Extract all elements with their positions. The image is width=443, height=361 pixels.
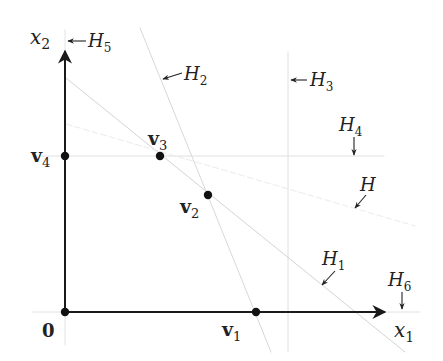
label-pointers — [68, 41, 402, 309]
h1-label: H1 — [321, 248, 345, 273]
v3-label: v3 — [147, 127, 167, 153]
vertex-origin — [61, 308, 69, 316]
origin-label: 0 — [42, 320, 55, 341]
h-label: H — [359, 174, 376, 195]
h1-pointer-arrow-icon — [322, 271, 335, 285]
h-pointer-arrow-icon — [355, 195, 366, 208]
vertex-v3 — [156, 152, 164, 160]
polytope-diagram: x2 x1 0 v1 v2 v3 v4 H5 H2 H3 H4 H H1 H6 — [0, 0, 443, 361]
h6-label: H6 — [387, 269, 411, 294]
h2-label: H2 — [183, 63, 207, 88]
h3-label: H3 — [309, 69, 333, 94]
vertex-v4 — [61, 152, 69, 160]
h4-label: H4 — [338, 114, 363, 139]
vertex-v2 — [204, 191, 212, 199]
v1-label: v1 — [221, 318, 241, 344]
h2-pointer-arrow-icon — [163, 73, 182, 79]
v2-label: v2 — [179, 195, 199, 221]
x2-axis-label: x2 — [30, 25, 50, 52]
vertices — [61, 152, 260, 316]
v4-label: v4 — [30, 144, 50, 170]
h5-label: H5 — [87, 30, 111, 55]
x1-axis-label: x1 — [394, 318, 414, 345]
vertex-v1 — [252, 308, 260, 316]
